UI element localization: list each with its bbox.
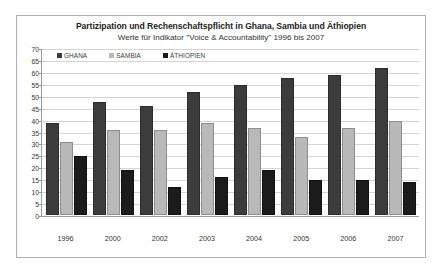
bar-äthiopien-1996[interactable] (74, 156, 87, 215)
bar-group (278, 49, 325, 215)
y-tick-label: 0 (35, 213, 39, 220)
y-tick-mark (39, 180, 42, 181)
bar-ghana-2002[interactable] (140, 106, 153, 215)
y-tick-mark (39, 144, 42, 145)
bar-ghana-2003[interactable] (187, 92, 200, 215)
x-tick-label: 2000 (89, 234, 136, 243)
y-tick-mark (39, 97, 42, 98)
x-tick-label: 2005 (278, 234, 325, 243)
bar-äthiopien-2003[interactable] (215, 177, 228, 215)
y-tick-label: 50 (31, 93, 39, 100)
legend-swatch-icon (109, 53, 114, 58)
x-tick-label: 2006 (325, 234, 372, 243)
bar-sambia-2004[interactable] (248, 128, 261, 215)
y-tick-mark (39, 192, 42, 193)
x-tick-label: 2004 (231, 234, 278, 243)
bar-sambia-2003[interactable] (201, 123, 214, 215)
legend-entry[interactable]: GHANA (57, 52, 87, 59)
bar-group (372, 49, 419, 215)
chart-subtitle: Werte für Indikator "Voice & Accountabil… (17, 32, 425, 43)
chart-legend: GHANASAMBIAÄTHIOPIEN (57, 52, 205, 59)
bar-ghana-2006[interactable] (328, 75, 341, 215)
y-tick-mark (39, 85, 42, 86)
bar-group (90, 49, 137, 215)
bar-äthiopien-2006[interactable] (356, 180, 369, 215)
y-tick-mark (39, 49, 42, 50)
bar-äthiopien-2005[interactable] (309, 180, 322, 215)
legend-label: ÄTHIOPIEN (170, 52, 205, 59)
legend-entry[interactable]: ÄTHIOPIEN (163, 52, 205, 59)
y-tick-label: 35 (31, 129, 39, 136)
chart-container: Partizipation und Rechenschaftspflicht i… (16, 15, 426, 258)
y-tick-mark (39, 133, 42, 134)
bar-group (325, 49, 372, 215)
y-tick-mark (39, 204, 42, 205)
x-tick-label: 2003 (183, 234, 230, 243)
y-tick-label: 20 (31, 165, 39, 172)
y-tick-label: 25 (31, 153, 39, 160)
y-tick-label: 15 (31, 177, 39, 184)
bar-sambia-2002[interactable] (154, 130, 167, 215)
legend-swatch-icon (57, 53, 62, 58)
bar-äthiopien-2007[interactable] (403, 182, 416, 215)
y-tick-label: 5 (35, 201, 39, 208)
y-tick-mark (39, 73, 42, 74)
bar-ghana-2004[interactable] (234, 85, 247, 215)
y-tick-label: 70 (31, 46, 39, 53)
bar-ghana-2000[interactable] (93, 102, 106, 215)
bar-äthiopien-2002[interactable] (168, 187, 181, 215)
x-axis-labels: 19962000200220032004200520062007 (42, 234, 419, 243)
legend-swatch-icon (163, 53, 168, 58)
bar-group (137, 49, 184, 215)
y-tick-mark (39, 216, 42, 217)
x-tick-label: 1996 (42, 234, 89, 243)
plot-inner: 7065605550454035302520151050 (41, 49, 419, 217)
bar-sambia-2006[interactable] (342, 128, 355, 215)
legend-label: GHANA (64, 52, 87, 59)
bar-ghana-2005[interactable] (281, 78, 294, 215)
y-tick-label: 55 (31, 81, 39, 88)
legend-entry[interactable]: SAMBIA (109, 52, 141, 59)
y-tick-label: 30 (31, 141, 39, 148)
bar-sambia-2000[interactable] (107, 130, 120, 215)
chart-title: Partizipation und Rechenschaftspflicht i… (17, 21, 425, 32)
bar-group (231, 49, 278, 215)
bar-ghana-2007[interactable] (375, 68, 388, 215)
bar-group (184, 49, 231, 215)
y-tick-label: 45 (31, 105, 39, 112)
bar-sambia-2007[interactable] (389, 121, 402, 215)
plot-area: 7065605550454035302520151050 (41, 49, 419, 217)
x-tick-label: 2002 (136, 234, 183, 243)
y-tick-mark (39, 109, 42, 110)
y-tick-mark (39, 121, 42, 122)
y-tick-label: 60 (31, 69, 39, 76)
y-tick-label: 10 (31, 189, 39, 196)
y-tick-label: 65 (31, 57, 39, 64)
y-tick-label: 40 (31, 117, 39, 124)
title-block: Partizipation und Rechenschaftspflicht i… (17, 21, 425, 43)
bar-äthiopien-2000[interactable] (121, 170, 134, 215)
bar-äthiopien-2004[interactable] (262, 170, 275, 215)
bar-group (43, 49, 90, 215)
y-tick-mark (39, 168, 42, 169)
y-tick-mark (39, 61, 42, 62)
legend-label: SAMBIA (116, 52, 141, 59)
bars-layer (43, 49, 419, 215)
bar-sambia-1996[interactable] (60, 142, 73, 215)
x-tick-label: 2007 (372, 234, 419, 243)
y-tick-mark (39, 156, 42, 157)
bar-sambia-2005[interactable] (295, 137, 308, 215)
bar-ghana-1996[interactable] (46, 123, 59, 215)
